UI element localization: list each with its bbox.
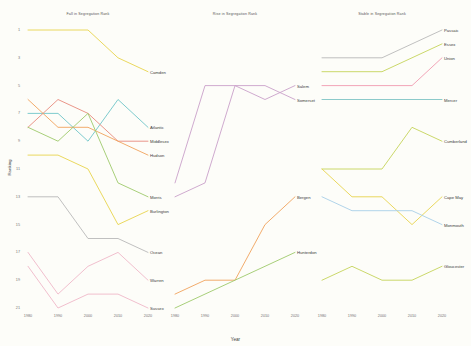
series-line — [322, 30, 442, 58]
series-label: Cape May — [444, 194, 463, 199]
series-label: Gloucester — [444, 264, 464, 269]
series-line — [322, 197, 442, 225]
series-label: Passaic — [444, 28, 459, 33]
series-label: Union — [444, 55, 455, 60]
series-lines — [0, 0, 471, 346]
series-line — [322, 127, 442, 169]
series-label: Mercer — [444, 97, 457, 102]
facet-panel-3: Stable in Segregation Rank19801990200020… — [0, 0, 471, 346]
series-line — [322, 266, 442, 280]
chart-root: Ranking Year 13579111315171921 Fall in S… — [0, 0, 471, 346]
series-label: Cumberland — [444, 139, 467, 144]
series-label: Monmouth — [444, 222, 464, 227]
series-label: Essex — [444, 41, 455, 46]
